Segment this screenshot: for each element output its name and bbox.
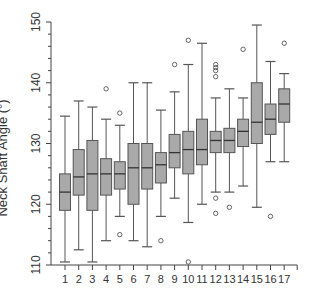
iqr-box	[197, 119, 208, 165]
outlier-point	[118, 111, 122, 115]
x-tick-label: 10	[182, 273, 194, 285]
box-4	[101, 87, 112, 241]
box-plot-chart: 110120130140150 123456789101112131415161…	[0, 0, 314, 300]
box-2	[73, 101, 84, 250]
box-3	[87, 107, 98, 262]
iqr-box	[251, 83, 262, 144]
x-tick-label: 8	[158, 273, 164, 285]
y-axis: 110120130140150	[29, 12, 51, 275]
y-tick-label: 150	[29, 12, 43, 32]
iqr-box	[279, 89, 290, 122]
box-9	[169, 62, 180, 198]
outlier-point	[214, 196, 218, 200]
x-tick-label: 4	[103, 273, 109, 285]
y-tick-label: 130	[29, 133, 43, 153]
x-tick-label: 13	[223, 273, 235, 285]
x-tick-label: 6	[130, 273, 136, 285]
box-7	[142, 83, 153, 247]
box-1	[60, 116, 71, 262]
box-10	[183, 38, 194, 264]
iqr-box	[87, 140, 98, 210]
x-axis: 1234567891011121314151617	[51, 265, 297, 285]
box-16	[265, 61, 276, 218]
x-tick-label: 3	[89, 273, 95, 285]
outlier-point	[104, 87, 108, 91]
outlier-point	[172, 62, 176, 66]
box-5	[114, 111, 125, 237]
x-tick-label: 5	[117, 273, 123, 285]
iqr-box	[210, 131, 221, 152]
x-tick-label: 15	[251, 273, 263, 285]
iqr-box	[73, 150, 84, 196]
box-12	[210, 62, 221, 215]
outlier-point	[268, 214, 272, 218]
y-tick-label: 110	[29, 255, 43, 274]
x-tick-label: 11	[196, 273, 207, 285]
outlier-point	[214, 74, 218, 78]
x-tick-label: 7	[144, 273, 150, 285]
iqr-box	[142, 144, 153, 190]
outlier-point	[118, 232, 122, 236]
x-tick-label: 16	[264, 273, 276, 285]
iqr-box	[114, 162, 125, 189]
box-14	[238, 47, 249, 186]
outlier-point	[227, 205, 231, 209]
x-tick-label: 9	[172, 273, 178, 285]
box-8	[155, 110, 166, 243]
y-tick-label: 140	[29, 72, 43, 92]
outlier-point	[186, 38, 190, 42]
outlier-point	[241, 47, 245, 51]
iqr-box	[183, 131, 194, 174]
boxes	[60, 25, 290, 264]
x-tick-label: 2	[76, 273, 82, 285]
box-13	[224, 89, 235, 210]
outlier-point	[186, 260, 190, 264]
x-tick-label: 1	[62, 273, 68, 285]
box-11	[197, 43, 208, 204]
box-15	[251, 25, 262, 207]
box-17	[279, 41, 290, 162]
iqr-box	[155, 153, 166, 183]
x-tick-label: 14	[237, 273, 249, 285]
outlier-point	[214, 211, 218, 215]
iqr-box	[238, 119, 249, 146]
iqr-box	[128, 144, 139, 205]
outlier-point	[159, 239, 163, 243]
iqr-box	[169, 134, 180, 167]
y-tick-label: 120	[29, 194, 43, 214]
iqr-box	[101, 159, 112, 195]
box-6	[128, 83, 139, 241]
outlier-point	[214, 68, 218, 72]
x-tick-label: 12	[210, 273, 222, 285]
x-tick-label: 17	[278, 273, 290, 285]
outlier-point	[282, 41, 286, 45]
